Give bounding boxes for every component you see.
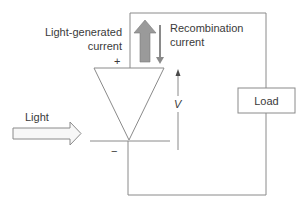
voltage-label: V (174, 98, 181, 110)
diode-triangle (94, 68, 164, 140)
recombination-current-label-line1: Recombination (170, 22, 243, 34)
recombination-current-label: Recombination current (170, 22, 243, 48)
recombination-current-arrow-icon (156, 25, 164, 64)
load-label: Load (238, 95, 295, 107)
minus-terminal-label: − (111, 145, 117, 157)
diode-symbol (90, 68, 170, 141)
light-generated-current-label-line2: current (30, 40, 122, 52)
light-label: Light (25, 111, 49, 123)
light-generated-current-arrow-icon (134, 20, 156, 62)
recombination-current-label-line2: current (170, 36, 243, 48)
light-generated-current-label: Light-generated current (30, 26, 122, 52)
bottom-wire (128, 113, 266, 195)
light-arrow-icon (13, 122, 81, 145)
light-generated-current-label-line1: Light-generated (30, 26, 122, 38)
plus-terminal-label: + (114, 55, 120, 67)
